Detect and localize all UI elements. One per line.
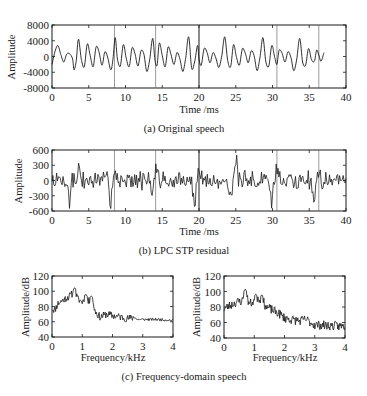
x-tick-label: 40: [341, 91, 353, 103]
x-tick-label: 30: [267, 91, 279, 103]
x-tick-label: 4: [342, 341, 348, 353]
plot-c2-ylabel: Amplitude/dB: [191, 277, 202, 337]
y-tick-label: 300: [33, 159, 50, 171]
y-tick-label: 60: [210, 317, 222, 329]
plot-b-ylabel: Amplitude: [13, 158, 24, 203]
y-tick-label: 80: [210, 301, 222, 313]
x-tick-label: 25: [230, 91, 242, 103]
x-tick-label: 0: [221, 341, 227, 353]
plot-c1-frame: [52, 276, 173, 337]
plot-a-ylabel: Amplitude: [6, 34, 17, 79]
plot-a-xticks: 0510152025303540: [49, 25, 352, 103]
y-tick-label: 120: [205, 270, 222, 282]
x-tick-label: 25: [230, 214, 242, 226]
y-tick-label: -300: [29, 190, 50, 202]
x-tick-label: 5: [86, 214, 92, 226]
caption-a: (a) Original speech: [144, 123, 225, 135]
x-tick-label: 2: [110, 340, 116, 352]
y-tick-label: 4000: [27, 35, 50, 47]
plot-spectrum-left: 120100806040 01234 Amplitude/dB Frequenc…: [20, 270, 176, 363]
x-tick-label: 10: [120, 91, 132, 103]
x-tick-label: 40: [341, 214, 353, 226]
plot-c1-ylabel: Amplitude/dB: [20, 277, 31, 337]
x-tick-label: 30: [267, 214, 279, 226]
plot-b-xlabel: Time /ms: [179, 226, 219, 237]
x-tick-label: 15: [157, 214, 169, 226]
plot-c2-xlabel: Frequency/kHz: [253, 352, 318, 363]
figure: 800040000-4000-8000 0510152025303540 Amp…: [0, 0, 367, 396]
plot-spectrum-right: 120100806040 01234 Amplitude/dB Frequenc…: [191, 270, 348, 363]
x-tick-label: 15: [157, 91, 169, 103]
y-tick-label: 100: [33, 285, 50, 297]
plot-a-markers: [114, 25, 318, 88]
y-tick-label: -4000: [23, 66, 49, 78]
y-tick-label: -8000: [23, 82, 49, 94]
plot-c1-xticks: 01234: [49, 276, 176, 352]
x-tick-label: 35: [304, 214, 316, 226]
plot-c1-spectrum: [52, 288, 173, 322]
y-tick-label: 40: [210, 332, 222, 344]
x-tick-label: 1: [80, 340, 86, 352]
y-tick-label: 0: [44, 51, 50, 63]
y-tick-label: 100: [205, 286, 222, 298]
y-tick-label: 40: [38, 331, 50, 343]
plot-c1-yticks: 120100806040: [33, 270, 174, 343]
x-tick-label: 0: [49, 214, 55, 226]
x-tick-label: 35: [304, 91, 316, 103]
y-tick-label: 80: [38, 301, 50, 313]
y-tick-label: 8000: [27, 19, 50, 31]
x-tick-label: 0: [49, 340, 55, 352]
plot-a-waveform: [52, 37, 324, 72]
plot-a-xlabel: Time /ms: [179, 104, 219, 115]
caption-c: (c) Frequency-domain speech: [122, 371, 248, 383]
plot-c2-xticks: 01234: [221, 276, 348, 353]
plot-lpc-residual: 6003000-300-600 0510152025303540 Amplitu…: [13, 144, 352, 257]
x-tick-label: 20: [194, 214, 206, 226]
y-tick-label: 120: [33, 270, 50, 282]
y-tick-label: 600: [33, 144, 50, 156]
plot-c2-spectrum: [224, 289, 345, 330]
plot-b-xticks: 0510152025303540: [49, 150, 352, 226]
caption-b: (b) LPC STP residual: [139, 245, 229, 257]
x-tick-label: 10: [120, 214, 132, 226]
x-tick-label: 4: [170, 340, 176, 352]
y-tick-label: 0: [44, 175, 50, 187]
plot-original-speech: 800040000-4000-8000 0510152025303540 Amp…: [6, 19, 352, 135]
x-tick-label: 5: [86, 91, 92, 103]
x-tick-label: 0: [49, 91, 55, 103]
y-tick-label: 60: [38, 316, 50, 328]
x-tick-label: 3: [140, 340, 146, 352]
x-tick-label: 20: [194, 91, 206, 103]
y-tick-label: -600: [29, 205, 50, 217]
plot-c1-xlabel: Frequency/kHz: [81, 352, 146, 363]
